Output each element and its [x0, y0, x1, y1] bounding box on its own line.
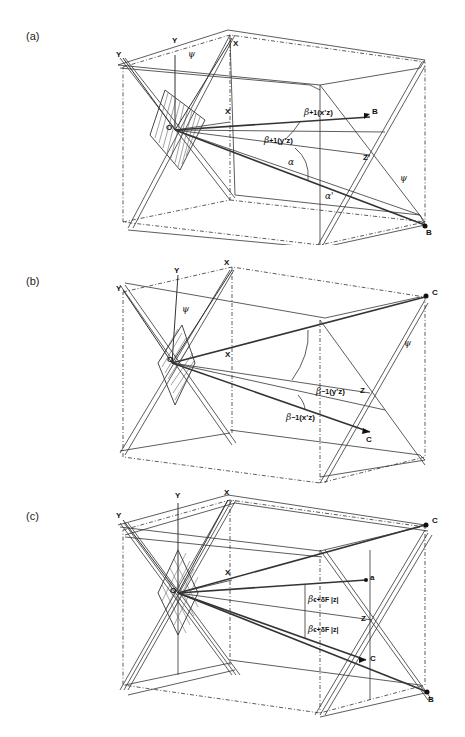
x-axis-top-label: X: [224, 259, 229, 267]
x-axis-mid-label: X: [225, 351, 230, 359]
psi-top-label: ψ: [182, 305, 189, 314]
beta-xz-label: β+1(x'z): [304, 108, 333, 117]
beta-lower-label: βϵ+δF |z|: [308, 625, 339, 634]
beta-xz-label: β−1(x'z): [286, 413, 315, 422]
panel-a-drawing: [0, 0, 465, 245]
origin-label: O: [170, 587, 176, 595]
panel-a: (a): [0, 0, 465, 245]
panel-b: (b): [0, 245, 465, 485]
psi-right-label: ψ: [400, 174, 407, 183]
point-b-upper: B: [372, 108, 378, 116]
psi-right-label: ψ: [404, 339, 411, 348]
point-c-lower: C: [366, 436, 372, 444]
z-point-label: Z': [363, 154, 370, 162]
point-c-upper: C: [432, 517, 438, 525]
panel-c-drawing: [0, 485, 465, 737]
panel-c: (c): [0, 485, 465, 737]
origin-label: O: [166, 124, 172, 132]
beta-yz-label: β−1(y'z): [316, 387, 345, 396]
point-b-label: B: [428, 696, 434, 704]
beta-yz-label: β+1(y'z): [264, 136, 293, 145]
z-point-label: Z: [360, 387, 365, 395]
y-axis-left-label: Y: [116, 285, 121, 293]
point-c-upper: C: [432, 289, 438, 297]
origin-label: O: [167, 356, 173, 364]
y-axis-top-label: Y: [172, 37, 177, 45]
x-axis-mid-label: X: [225, 108, 230, 116]
point-a-label: a: [370, 574, 374, 582]
y-axis-top-label: Y: [175, 492, 180, 500]
z-point-label: Z: [361, 615, 366, 623]
alpha-label: α: [288, 158, 294, 167]
point-c-lower: C: [370, 655, 376, 663]
panel-b-drawing: [0, 245, 465, 485]
x-axis-top-label: X: [233, 40, 238, 48]
alpha-prime-label: α': [325, 192, 334, 201]
y-axis-left-label: Y: [116, 51, 121, 59]
y-axis-left-label: Y: [116, 512, 121, 520]
beta-upper-label: βϵ+δF |z|: [308, 595, 339, 604]
x-axis-mid-label: X: [225, 569, 230, 577]
x-axis-top-label: X: [224, 489, 229, 497]
point-b-lower: B: [426, 229, 432, 237]
psi-top-label: ψ: [188, 50, 195, 59]
y-axis-top-label: Y: [174, 267, 179, 275]
